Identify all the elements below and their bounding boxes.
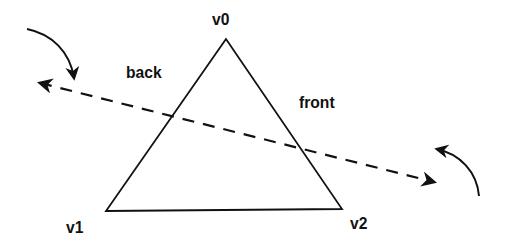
vertex-label-v1: v1 bbox=[66, 218, 83, 238]
front-rotation-arrow-icon bbox=[437, 149, 479, 196]
back-label: back bbox=[126, 63, 162, 83]
vertex-label-v0: v0 bbox=[212, 10, 229, 30]
dashed-axis-line bbox=[40, 83, 434, 182]
back-rotation-arrow-icon bbox=[27, 29, 74, 78]
vertex-label-v2: v2 bbox=[350, 214, 367, 234]
front-label: front bbox=[299, 93, 335, 113]
diagram-canvas: v0 v1 v2 back front bbox=[0, 0, 505, 251]
diagram-svg bbox=[0, 0, 505, 251]
